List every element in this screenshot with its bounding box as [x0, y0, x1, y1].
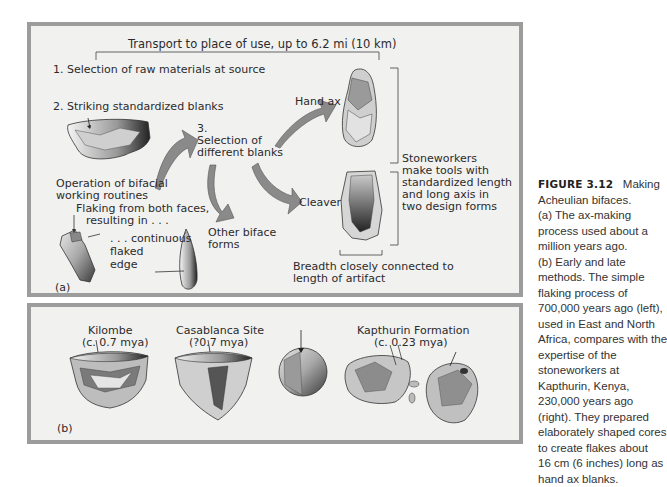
kilombe-date: (c. 0.7 mya) — [82, 336, 149, 349]
caption-line: 16 cm (6 inches) long as — [538, 456, 663, 472]
caption-line: expertise of the — [538, 348, 663, 364]
kapthurin-date: (c. 0.23 mya) — [374, 336, 448, 349]
caption-heading: FIGURE 3.12 Making — [538, 177, 663, 193]
figure-caption: FIGURE 3.12 Making Acheulian bifaces. (a… — [538, 177, 663, 487]
caption-line: to create flakes about — [538, 441, 663, 457]
casablanca-date: (?0.7 mya) — [189, 336, 248, 349]
caption-line: process used about a — [538, 224, 663, 240]
kapthurin-core-1-illustration — [345, 345, 419, 404]
caption-line: flaking process of — [538, 286, 663, 302]
caption-line: Kapthurin, Kenya, — [538, 379, 663, 395]
casablanca-core-illustration — [175, 340, 252, 420]
kapthurin-core-2-illustration — [426, 352, 478, 423]
round-core-illustration — [279, 330, 327, 396]
caption-line: methods. The simple — [538, 270, 663, 286]
figure-title: Making — [623, 178, 660, 190]
caption-line: hand ax blanks. — [538, 472, 663, 487]
caption-line: Africa, compares with the — [538, 332, 663, 348]
caption-line: Acheulian bifaces. — [538, 193, 663, 209]
caption-line: elaborately shaped cores — [538, 425, 663, 441]
caption-line: 230,000 years ago — [538, 394, 663, 410]
kilombe-core-illustration — [70, 340, 148, 408]
caption-line: (right). They prepared — [538, 410, 663, 426]
caption-line: stoneworkers at — [538, 363, 663, 379]
caption-line: used in East and North — [538, 317, 663, 333]
figure-number: FIGURE 3.12 — [538, 178, 613, 190]
caption-line: (b) Early and late — [538, 255, 663, 271]
caption-line: million years ago. — [538, 239, 663, 255]
caption-line: 700,000 years ago (left), — [538, 301, 663, 317]
panel-b-label: (b) — [57, 422, 73, 435]
caption-line: (a) The ax-making — [538, 208, 663, 224]
